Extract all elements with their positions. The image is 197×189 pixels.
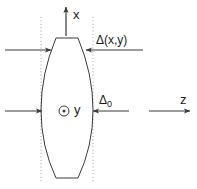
circle-dot-out-of-page-icon: [59, 106, 69, 116]
delta-xy-label: Δ(x,y): [96, 34, 127, 46]
y-axis-label: y: [74, 103, 81, 116]
lens-diagram: x z y Δ(x,y) Δ0: [0, 0, 197, 189]
z-axis-label: z: [180, 93, 187, 106]
delta-0-label: Δ0: [99, 94, 112, 109]
x-axis-label: x: [73, 8, 80, 21]
delta-0-subscript: 0: [107, 99, 112, 109]
delta-0-symbol: Δ: [99, 93, 107, 107]
